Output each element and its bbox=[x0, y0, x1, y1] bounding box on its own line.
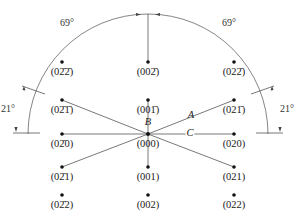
line-to-021 bbox=[148, 134, 234, 167]
spot-label: (001̄) bbox=[137, 105, 160, 116]
arc-arrow-left-lower bbox=[14, 127, 17, 132]
spot bbox=[60, 60, 64, 64]
spot bbox=[232, 165, 236, 169]
spot-label: (021) bbox=[223, 172, 246, 183]
spot bbox=[146, 60, 150, 64]
right-21deg-tick bbox=[251, 86, 274, 94]
spot-label: (022) bbox=[223, 200, 246, 211]
spot bbox=[60, 98, 64, 102]
spot bbox=[60, 132, 64, 136]
line-to-0m21 bbox=[62, 134, 148, 167]
spot-label: (02̄1̄) bbox=[51, 105, 74, 116]
spot bbox=[60, 193, 64, 197]
spot-label: (02̄2̄) bbox=[51, 67, 74, 78]
vector-label-B: B bbox=[145, 117, 151, 128]
angle-label-left: 21° bbox=[1, 104, 15, 114]
spot bbox=[146, 98, 150, 102]
spot-label: (002) bbox=[137, 200, 160, 211]
spot-label: (001) bbox=[137, 172, 160, 183]
spot bbox=[60, 165, 64, 169]
spot-label: (002̄) bbox=[137, 67, 160, 78]
spot-label: (02̄1) bbox=[51, 172, 74, 183]
spot-label: (02̄2) bbox=[51, 200, 74, 211]
angle-label-top-left: 69° bbox=[60, 18, 74, 28]
spot bbox=[232, 60, 236, 64]
left-21deg-tick bbox=[22, 86, 45, 94]
arc-arrow-right-lower bbox=[278, 127, 281, 132]
spot-label: (02̄0) bbox=[51, 139, 74, 150]
spot-label: (022̄) bbox=[223, 67, 246, 78]
arc-arrow-top-right bbox=[155, 13, 160, 16]
spot-label-center: (000) bbox=[137, 139, 160, 150]
spot bbox=[146, 165, 150, 169]
vector-label-A: A bbox=[188, 110, 194, 121]
vector-label-C: C bbox=[185, 128, 194, 139]
spot bbox=[232, 193, 236, 197]
spot bbox=[146, 193, 150, 197]
spot-label: (021̄) bbox=[223, 105, 246, 116]
arc-arrow-top-left bbox=[136, 13, 141, 16]
spot bbox=[232, 132, 236, 136]
angle-label-top-right: 69° bbox=[222, 18, 236, 28]
angle-label-right: 21° bbox=[280, 104, 294, 114]
line-to-0m2m1 bbox=[62, 100, 148, 134]
spot bbox=[232, 98, 236, 102]
spot-center bbox=[146, 132, 150, 136]
spot-label: (020) bbox=[223, 139, 246, 150]
